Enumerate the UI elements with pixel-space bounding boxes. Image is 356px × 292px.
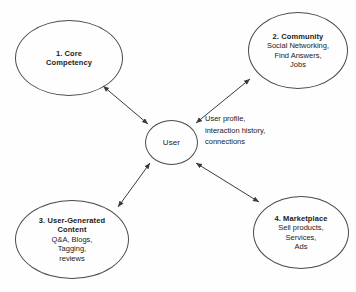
- node-ugc-detail-line: reviews: [52, 254, 93, 264]
- node-community-detail-line: Social Networking,: [267, 41, 329, 51]
- node-ugc-title-line2: Content: [57, 225, 86, 234]
- node-marketplace[interactable]: 4. Marketplace Sell products, Services, …: [253, 196, 349, 269]
- node-core-competency-title-line1: 1. Core: [56, 49, 82, 58]
- node-ugc-detail-line: Q&A, Blogs,: [52, 235, 93, 245]
- node-user-generated-content[interactable]: 3. User-Generated Content Q&A, Blogs, Ta…: [15, 200, 129, 279]
- node-community[interactable]: 2. Community Social Networking, Find Ans…: [248, 12, 348, 89]
- node-ugc-title-line1: 3. User-Generated: [39, 216, 105, 225]
- node-community-detail-line: Jobs: [267, 60, 329, 70]
- edge-label-line2: interaction history,: [205, 125, 265, 137]
- edge-label-line3: connections: [205, 136, 265, 148]
- diagram-canvas: 1. Core Competency 2. Community Social N…: [0, 0, 356, 292]
- edge-label-line1: User profile,: [205, 113, 265, 125]
- node-user-generated-content-title: 3. User-Generated Content: [39, 216, 105, 235]
- node-community-detail-line: Find Answers,: [267, 51, 329, 61]
- node-ugc-detail-line: Tagging,: [52, 244, 93, 254]
- node-user-title: User: [163, 138, 180, 148]
- connector-marketplace-user: [196, 163, 259, 202]
- node-core-competency-title-line2: Competency: [46, 58, 92, 67]
- connector-core-user: [103, 86, 148, 124]
- node-core-competency[interactable]: 1. Core Competency: [15, 20, 123, 96]
- connector-ugc-user: [118, 163, 150, 207]
- node-core-competency-title: 1. Core Competency: [46, 49, 92, 68]
- node-marketplace-title: 4. Marketplace: [274, 214, 327, 224]
- node-user[interactable]: User: [145, 120, 198, 165]
- node-marketplace-details: Sell products, Services, Ads: [278, 223, 323, 252]
- node-marketplace-detail-line: Sell products,: [278, 223, 323, 233]
- edge-label-user-attributes: User profile, interaction history, conne…: [205, 113, 265, 148]
- node-marketplace-detail-line: Services,: [278, 233, 323, 243]
- node-marketplace-detail-line: Ads: [278, 242, 323, 252]
- node-user-generated-content-details: Q&A, Blogs, Tagging, reviews: [52, 235, 93, 264]
- node-community-title: 2. Community: [273, 32, 324, 42]
- node-community-details: Social Networking, Find Answers, Jobs: [267, 41, 329, 70]
